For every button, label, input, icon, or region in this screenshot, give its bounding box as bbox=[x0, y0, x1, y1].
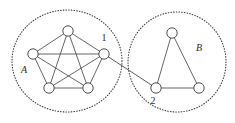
node-a3[interactable] bbox=[99, 49, 109, 59]
edge-a1-a4 bbox=[49, 31, 68, 88]
cluster-a-nodes bbox=[28, 26, 109, 93]
edge-b1-b3 bbox=[172, 33, 199, 88]
cluster-b-nodes bbox=[151, 28, 204, 93]
cluster-label-b: B bbox=[196, 42, 202, 53]
edge-b1-b2 bbox=[156, 33, 172, 88]
node-a2[interactable] bbox=[28, 49, 38, 59]
node-label-1: 1 bbox=[102, 32, 107, 43]
cluster-a-edges bbox=[33, 31, 104, 88]
edge-a1-a2 bbox=[33, 31, 68, 54]
node-a1[interactable] bbox=[63, 26, 73, 36]
graph-canvas: A B 1 2 bbox=[0, 0, 235, 123]
edge-a1-a5 bbox=[68, 31, 88, 88]
graph-figure: A B 1 2 bbox=[0, 0, 235, 123]
node-b2[interactable] bbox=[151, 83, 161, 93]
bridge-edge-1-2 bbox=[104, 54, 156, 88]
edge-a1-a3 bbox=[68, 31, 104, 54]
cluster-label-a: A bbox=[20, 64, 28, 75]
node-label-2: 2 bbox=[151, 95, 156, 106]
cluster-boundary-b bbox=[128, 12, 226, 112]
node-b1[interactable] bbox=[167, 28, 177, 38]
node-a5[interactable] bbox=[83, 83, 93, 93]
node-b3[interactable] bbox=[194, 83, 204, 93]
cluster-boundary-a bbox=[12, 10, 122, 112]
cluster-b-edges bbox=[156, 33, 199, 88]
node-a4[interactable] bbox=[44, 83, 54, 93]
